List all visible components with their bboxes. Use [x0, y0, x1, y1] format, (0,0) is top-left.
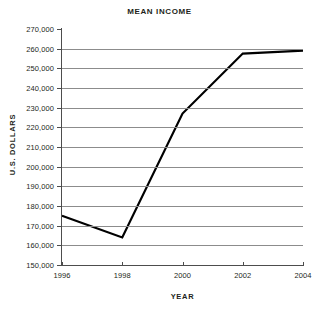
y-tick-mark: [57, 29, 62, 30]
y-tick-label: 170,000: [26, 222, 54, 231]
y-tick-label: 160,000: [26, 241, 54, 250]
x-tick-label: 2000: [163, 271, 203, 280]
y-tick-label: 180,000: [26, 202, 54, 211]
mean-income-line-chart: MEAN INCOME U.S. DOLLARS YEAR 270,000260…: [0, 0, 319, 314]
x-tick-label: 1998: [102, 271, 142, 280]
y-tick-label: 270,000: [26, 25, 54, 34]
y-tick-mark: [57, 245, 62, 246]
y-tick-mark: [57, 49, 62, 50]
y-tick-mark: [57, 68, 62, 69]
y-tick-label: 230,000: [26, 104, 54, 113]
grid-line: [62, 206, 303, 207]
y-tick-label: 240,000: [26, 84, 54, 93]
grid-line: [62, 127, 303, 128]
x-axis-title: YEAR: [62, 292, 303, 301]
y-tick-label: 210,000: [26, 143, 54, 152]
x-tick-mark: [122, 262, 123, 266]
y-tick-mark: [57, 226, 62, 227]
chart-title: MEAN INCOME: [0, 7, 319, 16]
x-tick-label: 1996: [42, 271, 82, 280]
y-tick-mark: [57, 167, 62, 168]
series-polyline: [62, 51, 303, 238]
y-tick-label: 220,000: [26, 123, 54, 132]
grid-line: [62, 147, 303, 148]
y-tick-mark: [57, 88, 62, 89]
grid-line: [62, 68, 303, 69]
y-tick-mark: [57, 108, 62, 109]
x-tick-mark: [183, 262, 184, 266]
grid-line: [62, 108, 303, 109]
grid-line: [62, 88, 303, 89]
x-tick-mark: [62, 262, 63, 266]
x-tick-mark: [303, 262, 304, 266]
y-tick-mark: [57, 186, 62, 187]
y-tick-label: 200,000: [26, 163, 54, 172]
x-tick-mark: [243, 262, 244, 266]
grid-line: [62, 226, 303, 227]
x-tick-label: 2002: [223, 271, 263, 280]
y-tick-label: 260,000: [26, 45, 54, 54]
plot-area: [62, 29, 303, 265]
grid-line: [62, 167, 303, 168]
grid-line: [62, 245, 303, 246]
y-tick-label: 150,000: [26, 261, 54, 270]
x-tick-label: 2004: [283, 271, 319, 280]
y-tick-label: 250,000: [26, 64, 54, 73]
y-tick-mark: [57, 206, 62, 207]
y-tick-mark: [57, 127, 62, 128]
y-axis-title: U.S. DOLLARS: [8, 95, 17, 195]
grid-line: [62, 49, 303, 50]
y-tick-label: 190,000: [26, 182, 54, 191]
y-tick-mark: [57, 147, 62, 148]
grid-line: [62, 186, 303, 187]
